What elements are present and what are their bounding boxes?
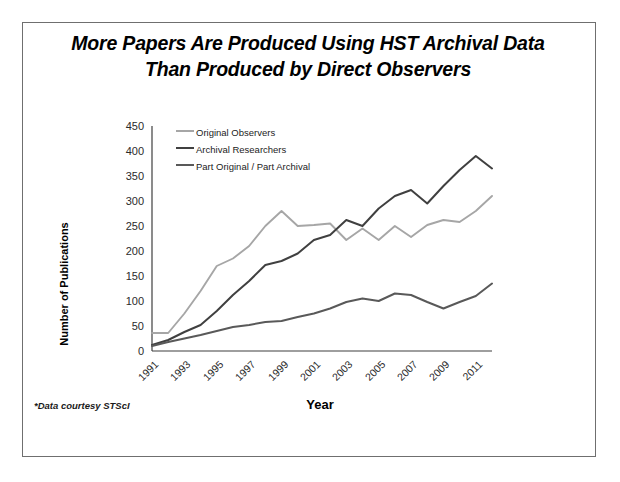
legend-swatch-icon	[176, 130, 194, 132]
page-title: More Papers Are Produced Using HST Archi…	[28, 30, 588, 82]
slide-canvas: More Papers Are Produced Using HST Archi…	[0, 0, 620, 482]
legend-swatch-icon	[176, 164, 194, 166]
series-line	[152, 284, 492, 347]
chart-plot	[0, 110, 620, 430]
series-line	[152, 196, 492, 333]
legend-label: Original Observers	[196, 127, 275, 138]
series-line	[152, 156, 492, 345]
legend-label: Part Original / Part Archival	[196, 161, 310, 172]
chart-container: Number of Publications Year 050100150200…	[0, 110, 620, 430]
legend-item[interactable]: Part Original / Part Archival	[176, 160, 310, 172]
title-line-2: Than Produced by Direct Observers	[28, 56, 588, 82]
chart-series-group	[152, 156, 492, 346]
title-line-1: More Papers Are Produced Using HST Archi…	[71, 32, 544, 54]
footnote: *Data courtesy STScI	[34, 400, 130, 411]
legend-item[interactable]: Archival Researchers	[176, 143, 286, 155]
legend-item[interactable]: Original Observers	[176, 126, 275, 138]
legend-swatch-icon	[176, 147, 194, 149]
legend-label: Archival Researchers	[196, 144, 286, 155]
